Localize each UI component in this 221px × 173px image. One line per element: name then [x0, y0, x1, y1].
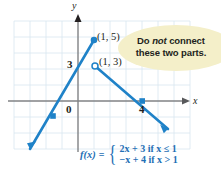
formula-case-2: −x + 4 if x > 1 — [120, 154, 178, 165]
callout-line-1: Do not connect — [122, 35, 220, 47]
callout-annotation: Do not connect these two parts. — [122, 35, 220, 59]
y-tick-label-3: 3 — [67, 58, 73, 70]
origin-label: 0 — [66, 103, 72, 115]
y-axis-label: y — [72, 0, 76, 11]
formula-function-name: f(x) — [80, 149, 96, 160]
point-marker-1-3 — [92, 63, 98, 69]
right-branch-segment — [95, 66, 168, 133]
callout-line1-post: connect — [167, 35, 205, 46]
point-label-1-5: (1, 5) — [97, 31, 120, 42]
x-tick-label-4: 4 — [139, 103, 145, 115]
callout-emphasis: not — [152, 35, 166, 46]
formula-brace: { — [109, 148, 117, 160]
callout-line-2: these two parts. — [122, 47, 220, 59]
callout-line1-pre: Do — [137, 35, 152, 46]
formula-case-1: 2x + 3 if x ≤ 1 — [120, 143, 178, 154]
x-axis-label: x — [193, 95, 197, 106]
point-label-1-3: (1, 3) — [99, 56, 122, 67]
formula-equals-sign: = — [99, 149, 105, 160]
piecewise-formula: f(x) = { 2x + 3 if x ≤ 1 −x + 4 if x > 1 — [80, 143, 178, 165]
point-marker-x-intercept-left — [50, 113, 56, 119]
